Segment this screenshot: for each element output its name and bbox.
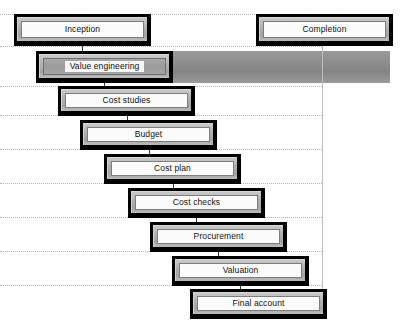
node-bevel: Budget <box>83 123 213 145</box>
node-budget[interactable]: Budget <box>80 120 217 150</box>
node-label: Cost plan <box>154 164 191 173</box>
node-label: Procurement <box>194 232 244 241</box>
node-face: Completion <box>263 21 386 38</box>
node-label: Cost checks <box>173 198 220 207</box>
node-label: Budget <box>135 130 163 139</box>
gridline <box>0 46 322 47</box>
node-face: Valuation <box>179 263 302 278</box>
node-face: Cost checks <box>135 195 258 210</box>
node-valuation[interactable]: Valuation <box>172 256 309 286</box>
node-face: Inception <box>21 21 144 38</box>
node-value-engineering[interactable]: Value engineering <box>36 51 173 83</box>
node-label: Final account <box>233 299 285 308</box>
node-bevel: Procurement <box>153 225 283 247</box>
node-bevel: Valuation <box>175 259 305 281</box>
node-bevel: Final account <box>193 292 323 314</box>
node-bevel: Cost checks <box>131 191 261 213</box>
node-bevel: Cost studies <box>61 89 191 111</box>
node-face: Cost studies <box>65 93 188 108</box>
node-cost-checks[interactable]: Cost checks <box>128 188 265 218</box>
node-completion[interactable]: Completion <box>256 14 393 46</box>
node-face: Budget <box>87 127 210 142</box>
node-label: Valuation <box>223 266 259 275</box>
node-face: Final account <box>197 296 320 311</box>
node-label: Cost studies <box>103 96 151 105</box>
node-bevel: Cost plan <box>107 157 237 179</box>
node-label: Value engineering <box>65 61 145 72</box>
node-face: Procurement <box>157 229 280 244</box>
node-bevel: Completion <box>259 17 389 41</box>
node-inception[interactable]: Inception <box>14 14 151 46</box>
node-bevel: Inception <box>17 17 147 41</box>
node-face: Value engineering <box>43 58 166 75</box>
node-cost-plan[interactable]: Cost plan <box>104 154 241 184</box>
vertical-boundary-line <box>322 46 323 291</box>
node-label: Inception <box>65 25 100 34</box>
node-final-account[interactable]: Final account <box>190 289 327 319</box>
diagram-canvas: Inception Completion Value engineering C… <box>0 0 401 324</box>
node-procurement[interactable]: Procurement <box>150 222 287 252</box>
node-bevel: Value engineering <box>39 54 169 78</box>
node-label: Completion <box>303 25 347 34</box>
node-face: Cost plan <box>111 161 234 176</box>
node-cost-studies[interactable]: Cost studies <box>58 86 195 116</box>
